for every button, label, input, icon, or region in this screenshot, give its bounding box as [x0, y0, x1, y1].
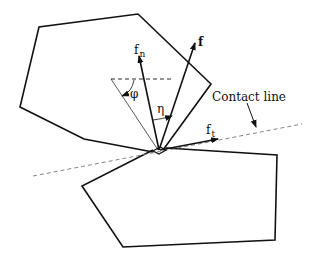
f-arrow	[159, 43, 195, 150]
contact-line	[33, 124, 302, 176]
ft-label: ft	[206, 124, 215, 136]
ft-arrow	[160, 139, 218, 150]
lower-polygon	[82, 148, 277, 247]
contact-line-label: Contact line	[212, 91, 286, 103]
fn-label: fn	[134, 44, 145, 56]
phi-label: φ	[130, 88, 138, 100]
f-label: f	[198, 36, 203, 48]
eta-label: η	[157, 103, 164, 115]
diagram-graphics	[0, 0, 315, 260]
contact-force-diagram: fn f φ η Contact line ft	[0, 0, 315, 260]
contact-line-leader	[247, 103, 256, 127]
